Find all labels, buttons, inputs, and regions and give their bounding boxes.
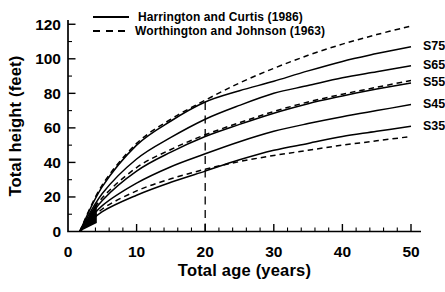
y-tick-label: 100: [35, 50, 61, 67]
y-tick-label: 120: [35, 16, 61, 33]
x-tick-label: 0: [64, 243, 73, 260]
site-index-chart: 01020304050020406080100120 Total height …: [0, 0, 445, 292]
curve-label-s65: S65: [423, 59, 445, 72]
x-tick-label: 50: [402, 243, 419, 260]
y-axis-title: Total height (feet): [6, 18, 26, 234]
curve-label-s35: S35: [423, 120, 445, 133]
plot-svg: 01020304050020406080100120: [0, 0, 445, 292]
legend-row-solid: Harrington and Curtis (1986): [93, 10, 325, 24]
x-tick-label: 10: [128, 243, 145, 260]
x-tick-label: 20: [197, 243, 214, 260]
dashed-line-sample-icon: [93, 30, 126, 32]
curve-label-s75: S75: [423, 40, 445, 53]
curve-label-s55: S55: [423, 76, 445, 89]
curve-harrington-and-curtis-1986--s35: [80, 126, 411, 231]
y-tick-label: 40: [44, 154, 61, 171]
curve-harrington-and-curtis-1986--s45: [80, 105, 411, 232]
solid-line-sample-icon: [93, 16, 129, 18]
legend-row-dashed: Worthington and Johnson (1963): [93, 24, 325, 38]
y-tick-label: 60: [44, 119, 61, 136]
legend-label-solid: Harrington and Curtis (1986): [138, 10, 303, 24]
y-tick-label: 20: [44, 188, 61, 205]
legend: Harrington and Curtis (1986) Worthington…: [93, 10, 325, 38]
y-tick-label: 0: [52, 223, 61, 240]
x-tick-label: 30: [265, 243, 282, 260]
curve-harrington-and-curtis-1986--s55: [80, 83, 411, 232]
x-axis-title: Total age (years): [68, 261, 421, 280]
y-tick-label: 80: [44, 85, 61, 102]
curve-label-s45: S45: [423, 98, 445, 111]
legend-label-dashed: Worthington and Johnson (1963): [135, 24, 325, 38]
x-tick-label: 40: [334, 243, 351, 260]
